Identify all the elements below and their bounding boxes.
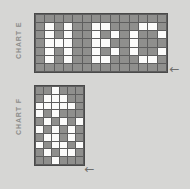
grid-cell[interactable] <box>76 126 83 133</box>
grid-cell[interactable] <box>44 118 51 125</box>
grid-cell[interactable] <box>68 142 75 149</box>
grid-cell[interactable] <box>36 103 43 110</box>
grid-cell[interactable] <box>158 23 166 30</box>
grid-cell[interactable] <box>92 39 100 46</box>
grid-cell[interactable] <box>83 48 91 55</box>
grid-cell[interactable] <box>68 87 75 94</box>
grid-cell[interactable] <box>60 126 67 133</box>
grid-cell[interactable] <box>139 15 147 22</box>
grid-cell[interactable] <box>64 56 72 63</box>
grid-cell[interactable] <box>64 39 72 46</box>
grid-cell[interactable] <box>45 48 53 55</box>
grid-cell[interactable] <box>101 23 109 30</box>
grid-cell[interactable] <box>101 39 109 46</box>
grid-cell[interactable] <box>60 103 67 110</box>
grid-cell[interactable] <box>83 56 91 63</box>
grid-cell[interactable] <box>64 31 72 38</box>
grid-cell[interactable] <box>52 157 59 164</box>
grid-cell[interactable] <box>60 157 67 164</box>
grid-cell[interactable] <box>44 110 51 117</box>
grid-cell[interactable] <box>60 110 67 117</box>
grid-cell[interactable] <box>60 134 67 141</box>
grid-cell[interactable] <box>158 56 166 63</box>
grid-cell[interactable] <box>36 64 44 71</box>
grid-cell[interactable] <box>76 95 83 102</box>
grid-cell[interactable] <box>68 134 75 141</box>
grid-cell[interactable] <box>60 95 67 102</box>
grid-cell[interactable] <box>36 142 43 149</box>
grid-cell[interactable] <box>45 64 53 71</box>
grid-cell[interactable] <box>73 56 81 63</box>
grid-cell[interactable] <box>111 64 119 71</box>
grid-cell[interactable] <box>36 134 43 141</box>
grid-cell[interactable] <box>52 118 59 125</box>
grid-cell[interactable] <box>158 31 166 38</box>
grid-cell[interactable] <box>52 103 59 110</box>
chart-f-grid[interactable] <box>34 85 85 166</box>
grid-cell[interactable] <box>158 15 166 22</box>
grid-cell[interactable] <box>101 15 109 22</box>
grid-cell[interactable] <box>73 64 81 71</box>
grid-cell[interactable] <box>52 134 59 141</box>
grid-cell[interactable] <box>83 64 91 71</box>
grid-cell[interactable] <box>120 31 128 38</box>
grid-cell[interactable] <box>148 56 156 63</box>
grid-cell[interactable] <box>139 31 147 38</box>
grid-cell[interactable] <box>64 15 72 22</box>
grid-cell[interactable] <box>130 31 138 38</box>
grid-cell[interactable] <box>120 48 128 55</box>
grid-cell[interactable] <box>55 39 63 46</box>
grid-cell[interactable] <box>44 149 51 156</box>
grid-cell[interactable] <box>148 15 156 22</box>
grid-cell[interactable] <box>68 118 75 125</box>
grid-cell[interactable] <box>73 23 81 30</box>
grid-cell[interactable] <box>76 142 83 149</box>
grid-cell[interactable] <box>36 15 44 22</box>
grid-cell[interactable] <box>111 15 119 22</box>
grid-cell[interactable] <box>64 64 72 71</box>
grid-cell[interactable] <box>101 56 109 63</box>
grid-cell[interactable] <box>68 103 75 110</box>
grid-cell[interactable] <box>76 110 83 117</box>
grid-cell[interactable] <box>60 118 67 125</box>
grid-cell[interactable] <box>130 23 138 30</box>
grid-cell[interactable] <box>73 48 81 55</box>
grid-cell[interactable] <box>52 126 59 133</box>
grid-cell[interactable] <box>45 31 53 38</box>
grid-cell[interactable] <box>83 31 91 38</box>
grid-cell[interactable] <box>83 39 91 46</box>
grid-cell[interactable] <box>68 110 75 117</box>
grid-cell[interactable] <box>68 95 75 102</box>
grid-cell[interactable] <box>44 126 51 133</box>
grid-cell[interactable] <box>130 64 138 71</box>
grid-cell[interactable] <box>36 39 44 46</box>
grid-cell[interactable] <box>64 48 72 55</box>
grid-cell[interactable] <box>60 142 67 149</box>
grid-cell[interactable] <box>60 149 67 156</box>
grid-cell[interactable] <box>139 39 147 46</box>
grid-cell[interactable] <box>83 15 91 22</box>
grid-cell[interactable] <box>44 142 51 149</box>
grid-cell[interactable] <box>60 87 67 94</box>
grid-cell[interactable] <box>120 39 128 46</box>
grid-cell[interactable] <box>148 23 156 30</box>
grid-cell[interactable] <box>55 56 63 63</box>
grid-cell[interactable] <box>55 48 63 55</box>
grid-cell[interactable] <box>55 64 63 71</box>
grid-cell[interactable] <box>158 64 166 71</box>
grid-cell[interactable] <box>130 48 138 55</box>
grid-cell[interactable] <box>73 15 81 22</box>
grid-cell[interactable] <box>52 95 59 102</box>
grid-cell[interactable] <box>130 39 138 46</box>
grid-cell[interactable] <box>55 31 63 38</box>
grid-cell[interactable] <box>92 23 100 30</box>
grid-cell[interactable] <box>120 64 128 71</box>
grid-cell[interactable] <box>130 56 138 63</box>
grid-cell[interactable] <box>76 87 83 94</box>
grid-cell[interactable] <box>148 48 156 55</box>
grid-cell[interactable] <box>52 110 59 117</box>
grid-cell[interactable] <box>36 31 44 38</box>
grid-cell[interactable] <box>76 149 83 156</box>
grid-cell[interactable] <box>73 39 81 46</box>
grid-cell[interactable] <box>101 48 109 55</box>
